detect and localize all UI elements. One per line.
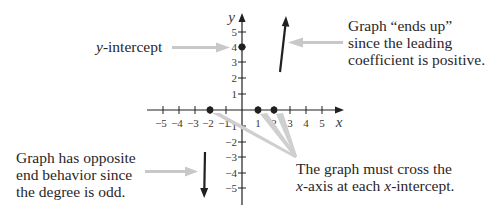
svg-text:1: 1 <box>255 117 261 129</box>
svg-text:−2: −2 <box>225 136 237 148</box>
opposite-end-annotation: Graph has opposite end behavior since th… <box>16 149 136 200</box>
x-intercept-point-2 <box>271 107 278 114</box>
cross-axis-line-1: The graph must cross the <box>296 160 454 177</box>
right-end-up-arrow-icon <box>280 24 286 72</box>
opposite-end-line-1: Graph has opposite <box>16 149 136 166</box>
svg-text:1: 1 <box>232 88 238 100</box>
ends-up-line-3: coefficient is positive. <box>348 51 485 68</box>
cross-axis-annotation: The graph must cross the x-axis at each … <box>296 160 454 194</box>
x-tick-labels: −5 −4 −3 −2 −1 1 2 3 4 5 x <box>155 114 343 130</box>
y-intercept-pointer-icon <box>172 43 230 53</box>
svg-text:−4: −4 <box>225 167 237 179</box>
ends-up-line-1: Graph “ends up” <box>348 17 485 34</box>
y-axis-label: y <box>226 9 235 25</box>
opposite-end-line-2: end behavior since <box>16 166 136 183</box>
ends-up-annotation: Graph “ends up” since the leading coeffi… <box>348 17 485 68</box>
opposite-end-pointer-icon <box>145 167 198 177</box>
y-intercept-point <box>239 44 246 51</box>
svg-text:5: 5 <box>319 117 325 129</box>
x-axis-arrow-icon <box>335 107 344 114</box>
svg-text:4: 4 <box>303 117 309 129</box>
ends-up-pointer-icon <box>288 38 343 48</box>
svg-text:2: 2 <box>232 72 238 84</box>
end-behavior-arrows <box>200 16 289 198</box>
opposite-end-line-3: the degree is odd. <box>16 183 136 200</box>
y-axis-arrow-icon <box>239 13 246 22</box>
cross-axis-line-2: x-axis at each x-intercept. <box>296 177 454 194</box>
x-axis-label: x <box>335 114 343 130</box>
svg-text:−5: −5 <box>155 117 167 129</box>
y-tick-labels: 5 4 3 2 1 −1 −2 −3 −4 −5 y <box>225 9 237 194</box>
svg-text:3: 3 <box>232 56 238 68</box>
svg-text:−5: −5 <box>225 182 237 194</box>
x-intercept-point-neg2 <box>207 107 214 114</box>
ends-up-line-2: since the leading <box>348 34 485 51</box>
pointer-arrows <box>145 38 343 177</box>
svg-text:−3: −3 <box>187 117 199 129</box>
y-intercept-annotation: y-intercept <box>96 38 162 55</box>
svg-text:−2: −2 <box>202 117 214 129</box>
svg-text:−3: −3 <box>225 151 237 163</box>
svg-text:5: 5 <box>232 26 238 38</box>
left-end-down-arrow-icon <box>204 152 205 190</box>
svg-text:4: 4 <box>232 41 238 53</box>
svg-text:3: 3 <box>287 117 293 129</box>
svg-text:−4: −4 <box>171 117 183 129</box>
x-intercept-point-1 <box>255 107 262 114</box>
